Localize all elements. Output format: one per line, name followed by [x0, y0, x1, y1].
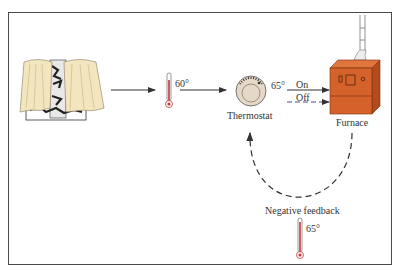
setpoint-label: 65° — [271, 80, 285, 91]
thermostat-dial-icon — [236, 76, 266, 106]
thermostat-label: Thermostat — [227, 110, 273, 121]
diagram-canvas — [0, 0, 399, 271]
room-temperature-label: 60° — [175, 78, 189, 89]
furnace-label: Furnace — [336, 117, 368, 128]
thermometer-icon — [166, 73, 173, 108]
thermometer-icon-result — [297, 218, 304, 259]
off-signal-label: Off — [296, 92, 310, 103]
window-icon — [20, 60, 104, 121]
on-signal-label: On — [296, 79, 308, 90]
feedback-loop-arrow — [250, 133, 352, 197]
result-temperature-label: 65° — [306, 223, 320, 234]
negative-feedback-label: Negative feedback — [265, 205, 340, 216]
furnace-icon — [330, 15, 380, 114]
